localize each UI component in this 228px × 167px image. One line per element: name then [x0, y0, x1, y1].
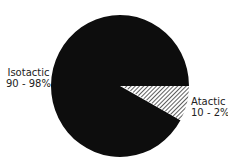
isotactic-name: Isotactic — [6, 67, 51, 78]
atactic-range: 10 - 2% — [191, 107, 228, 118]
atactic-label: Atactic 10 - 2% — [191, 96, 228, 118]
atactic-name: Atactic — [191, 96, 228, 107]
isotactic-label: Isotactic 90 - 98% — [6, 67, 51, 89]
pie-slices — [51, 15, 189, 157]
isotactic-range: 90 - 98% — [6, 78, 51, 89]
